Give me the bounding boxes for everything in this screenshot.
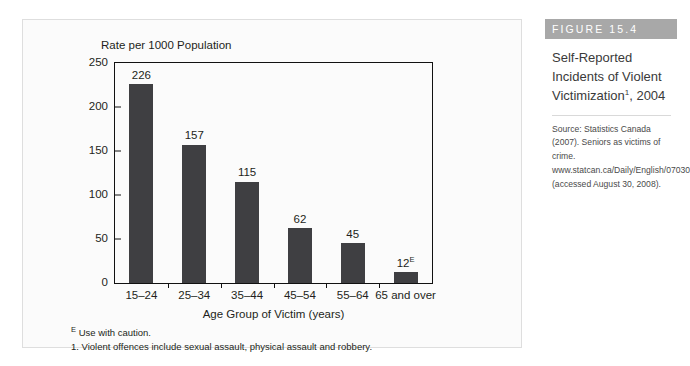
bar-value-label: 45 <box>346 229 359 241</box>
x-axis-title: Age Group of Victim (years) <box>114 308 433 320</box>
y-tick-mark <box>115 239 121 240</box>
figure-title-line-3-suffix: , 2004 <box>629 88 665 103</box>
y-tick-label: 0 <box>102 277 115 289</box>
figure-sidebar: FIGURE 15.4 Self-Reported Incidents of V… <box>545 19 677 192</box>
y-axis-title: Rate per 1000 Population <box>101 39 231 51</box>
bar-value-superscript: E <box>409 255 414 264</box>
y-tick-label: 250 <box>89 57 115 69</box>
y-tick-label: 200 <box>89 101 115 113</box>
x-tick-label: 35–44 <box>231 290 263 302</box>
figure-title-line-2: Incidents of Violent <box>552 69 662 84</box>
figure-title: Self-Reported Incidents of Violent Victi… <box>545 39 677 106</box>
chart-plot-area: 050100150200250 226157115624512E 15–2425… <box>114 62 433 284</box>
y-tick-mark <box>115 195 121 196</box>
figure-panel: Rate per 1000 Population 050100150200250… <box>22 19 522 348</box>
footnote-caution-text: Use with caution. <box>79 327 151 338</box>
bar: 226 <box>129 84 153 283</box>
x-tick-mark <box>326 283 327 288</box>
y-tick-mark <box>115 107 121 108</box>
footnote-caution-marker: E <box>71 325 76 334</box>
figure-source-note: Source: Statistics Canada (2007). Senior… <box>545 116 677 193</box>
y-tick-mark <box>115 151 121 152</box>
footnotes: E Use with caution. 1. Violent offences … <box>71 326 372 354</box>
footnote-caution: E Use with caution. <box>71 326 372 340</box>
x-tick-label: 55–64 <box>337 290 369 302</box>
bar-value-label: 12E <box>397 258 415 270</box>
x-tick-mark <box>168 283 169 288</box>
x-tick-label: 25–34 <box>178 290 210 302</box>
x-tick-mark <box>379 283 380 288</box>
x-tick-label: 45–54 <box>284 290 316 302</box>
figure-title-line-1: Self-Reported <box>552 50 632 65</box>
footnote-note-one: 1. Violent offences include sexual assau… <box>71 340 372 354</box>
x-tick-label: 65 and over <box>375 290 436 302</box>
figure-number-header: FIGURE 15.4 <box>545 19 677 39</box>
bar-value-label: 157 <box>185 130 204 142</box>
bar-value-label: 115 <box>238 167 256 179</box>
bar-value-label: 226 <box>132 70 151 82</box>
bar: 12E <box>394 272 418 283</box>
x-tick-mark <box>221 283 222 288</box>
bar-value-label: 62 <box>294 214 307 226</box>
bar: 115 <box>235 182 259 283</box>
x-tick-label: 15–24 <box>125 290 157 302</box>
figure-title-line-3: Victimization <box>552 88 625 103</box>
bar: 45 <box>341 243 365 283</box>
bar: 62 <box>288 228 312 283</box>
y-tick-label: 50 <box>95 233 115 245</box>
x-tick-mark <box>274 283 275 288</box>
bar: 157 <box>182 145 206 283</box>
y-tick-label: 100 <box>89 189 115 201</box>
y-tick-label: 150 <box>89 145 115 157</box>
